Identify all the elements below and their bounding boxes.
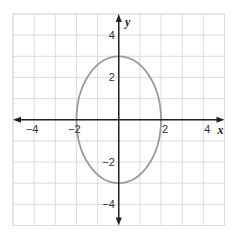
coordinate-plane: −4−22442−2−4xy bbox=[0, 0, 237, 236]
y-tick-label: −4 bbox=[102, 198, 115, 210]
y-tick-label: 4 bbox=[109, 29, 115, 41]
x-tick-label: 2 bbox=[162, 123, 168, 135]
x-tick-label: 4 bbox=[204, 123, 210, 135]
y-axis-label: y bbox=[123, 15, 131, 29]
y-tick-label: −2 bbox=[102, 156, 115, 168]
y-tick-label: 2 bbox=[109, 71, 115, 83]
x-tick-label: −2 bbox=[68, 123, 81, 135]
x-axis-label: x bbox=[217, 123, 224, 137]
x-tick-label: −4 bbox=[26, 123, 39, 135]
